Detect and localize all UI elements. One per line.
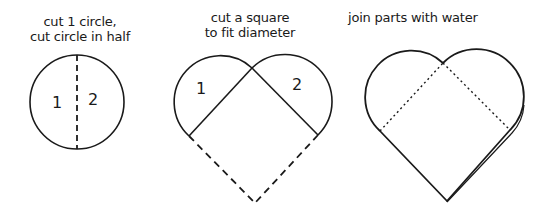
right-half-circle	[252, 54, 332, 135]
join-line-right-dotted	[443, 63, 510, 130]
half-label-2: 2	[292, 75, 302, 94]
step2-square-figure: 1 2	[174, 54, 332, 203]
step1-circle-figure: 1 2	[30, 55, 124, 149]
square-right-edge-dashed	[255, 135, 318, 203]
diagram-canvas: 1 2 1 2	[0, 0, 553, 214]
half-label-1: 1	[52, 93, 62, 112]
half-label-2: 2	[88, 90, 98, 109]
square-left-edge-dashed	[189, 136, 255, 203]
join-line-left-dotted	[380, 63, 443, 131]
step3-heart-figure	[365, 49, 524, 202]
left-half-circle	[174, 56, 252, 136]
half-label-1: 1	[196, 79, 206, 98]
right-diameter	[252, 68, 318, 135]
heart-outline	[365, 49, 524, 201]
